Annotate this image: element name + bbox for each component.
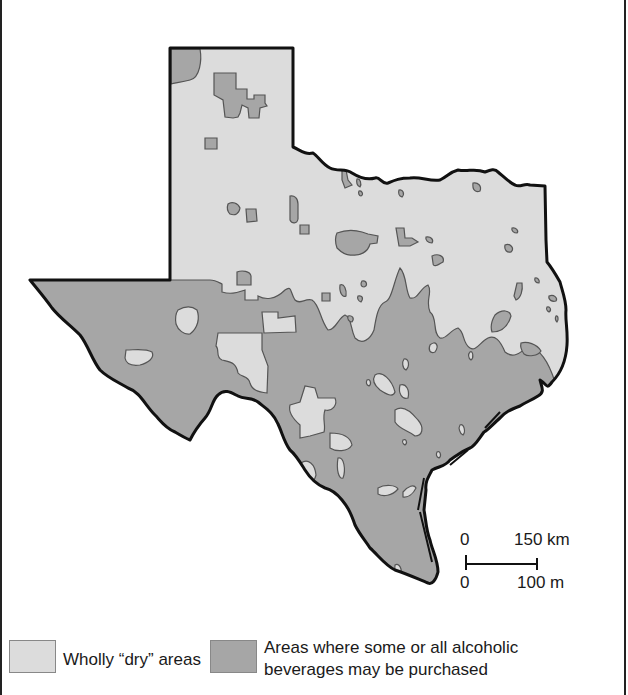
- dry-area-south-15: [429, 343, 437, 353]
- dry-area-south-17: [366, 380, 370, 386]
- wet-area-pan-3: [227, 203, 240, 215]
- wet-area-ne-4: [399, 190, 404, 197]
- wet-area-ne-15: [348, 316, 353, 322]
- scale-bar: [466, 555, 537, 570]
- legend-label-wet-line2: beverages may be purchased: [264, 659, 488, 681]
- dry-area-south-13: [403, 440, 407, 445]
- dry-area-south-18: [436, 452, 440, 458]
- wet-area-ne-18: [549, 295, 557, 301]
- dry-area-south-19: [282, 499, 287, 506]
- dry-area-south-7: [337, 458, 344, 478]
- scale-km-value: 150 km: [514, 530, 570, 550]
- scale-mi-zero: 0: [460, 573, 469, 593]
- dry-area-south-16: [469, 352, 473, 360]
- wet-area-ne-19: [547, 307, 551, 312]
- scale-km-zero: 0: [460, 530, 469, 550]
- legend-swatch-wet: [210, 640, 257, 673]
- wet-area-ne-17: [535, 278, 540, 283]
- wet-area-ne-20: [555, 316, 558, 322]
- wet-area-ne-3: [359, 191, 363, 196]
- texas-map: [0, 0, 628, 600]
- wet-area-ne-12: [322, 293, 330, 301]
- wet-area-ne-5: [473, 183, 481, 192]
- scale-mi-value: 100 m: [517, 573, 564, 593]
- wet-area-ne-10: [505, 245, 513, 253]
- wet-area-pan-6: [300, 225, 309, 234]
- wet-area-pan-7: [237, 271, 251, 285]
- legend-label-wet-line1: Areas where some or all alcoholic: [264, 637, 518, 659]
- legend-swatch-dry: [9, 640, 56, 673]
- legend-label-dry: Wholly “dry” areas: [63, 649, 201, 671]
- wet-area-pan-4: [246, 209, 257, 222]
- wet-area-ne-11: [361, 281, 367, 287]
- dry-area-south-14: [403, 359, 409, 370]
- wet-area-pan-2: [205, 138, 217, 149]
- wet-area-pan-5: [290, 196, 298, 223]
